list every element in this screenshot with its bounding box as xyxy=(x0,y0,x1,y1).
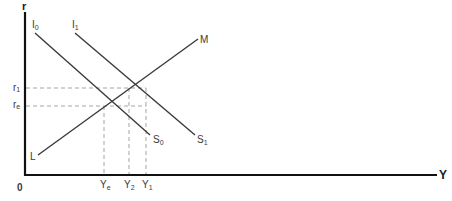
origin-label: 0 xyxy=(17,182,23,193)
tick-re: re xyxy=(13,99,20,110)
tick-ye: Ye xyxy=(100,179,111,191)
label-i1: I1 xyxy=(72,19,79,31)
guide-lines xyxy=(26,88,146,174)
label-l: L xyxy=(30,151,36,162)
label-s1: S1 xyxy=(197,134,208,146)
label-i0: I0 xyxy=(32,19,39,31)
tick-y1: Y1 xyxy=(142,179,153,191)
label-m: M xyxy=(200,34,208,45)
y-axis-label: r xyxy=(22,0,27,12)
tick-r1: r1 xyxy=(13,82,20,93)
label-s0: S0 xyxy=(153,134,164,146)
x-axis-label: Y xyxy=(439,168,447,182)
tick-y2: Y2 xyxy=(124,179,135,191)
diagram-canvas: r Y 0 I0 I1 S0 S1 L M r1 re Ye Y2 Y1 xyxy=(0,0,452,201)
